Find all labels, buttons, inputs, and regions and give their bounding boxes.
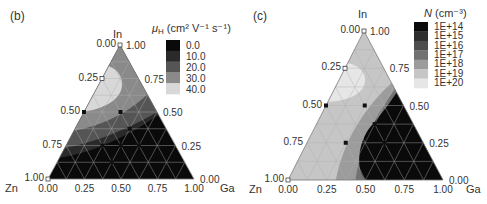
tick-bottom: 0.25 [75, 183, 95, 194]
legend-swatch [414, 50, 428, 60]
legend-swatch [166, 40, 180, 51]
legend-swatch [414, 79, 428, 89]
legend-title: μH (cm² V⁻¹ s⁻¹) [151, 22, 231, 36]
data-point [82, 110, 86, 114]
tick-bottom: 0.75 [395, 184, 415, 195]
legend-level: 30.0 [186, 73, 206, 84]
tick-bottom: 0.25 [317, 184, 337, 195]
tick-right: 0.25 [429, 138, 449, 149]
tick-right: 0.50 [410, 101, 430, 112]
tick-right: 0.75 [390, 63, 410, 74]
legend-level: 20.0 [186, 62, 206, 73]
tick-left: 0.25 [79, 72, 99, 83]
panel-label-b: (b) [10, 9, 25, 23]
data-point-open [343, 66, 347, 70]
legend-swatch [414, 60, 428, 70]
tick-left: 0.00 [341, 24, 361, 35]
tick-bottom: 1.00 [433, 184, 453, 195]
data-point-open [118, 43, 122, 47]
tick-bottom: 0.50 [111, 183, 131, 194]
legend-level: 40.0 [186, 84, 206, 95]
legend-level: 0.0 [186, 40, 200, 51]
vertex-label-in-c: In [358, 8, 367, 20]
data-point [344, 141, 348, 145]
data-point [324, 104, 328, 108]
legend-level: 1E+20 [434, 77, 464, 88]
tick-right: 1.00 [370, 26, 390, 37]
tick-right: 0.75 [145, 74, 165, 85]
tick-right: 1.00 [126, 40, 146, 51]
data-point [119, 144, 123, 148]
data-point [383, 141, 387, 145]
tick-left: 0.75 [284, 136, 304, 147]
panel-label-c: (c) [253, 9, 267, 23]
tick-bottom: 0.00 [38, 183, 58, 194]
vertex-label-in-b: In [113, 28, 122, 40]
legend-swatch [166, 51, 180, 62]
data-point-open [362, 29, 366, 33]
tick-right: 0.50 [163, 107, 183, 118]
tick-left: 0.25 [322, 61, 342, 72]
figure: 0.001.000.000.250.750.250.500.500.500.75… [0, 0, 487, 204]
legend-carrier-density: 1E+141E+151E+161E+171E+181E+191E+20N (cm… [414, 7, 467, 88]
legend-swatch [414, 31, 428, 41]
legend-title: N (cm⁻³) [424, 7, 467, 19]
data-point [110, 160, 114, 164]
tick-left: 1.00 [25, 172, 45, 183]
vertex-label-ga-b: Ga [220, 182, 236, 194]
vertex-label-zn-c: Zn [249, 183, 262, 195]
vertex-label-zn-b: Zn [5, 182, 18, 194]
legend-swatch [166, 83, 180, 94]
data-point-open [46, 177, 50, 181]
tick-bottom: 0.75 [148, 183, 168, 194]
tick-left: 0.50 [61, 105, 81, 116]
data-point [373, 122, 377, 126]
legend-level: 10.0 [186, 51, 206, 62]
tick-right: 0.25 [182, 141, 202, 152]
data-point-open [286, 178, 290, 182]
data-point [137, 144, 141, 148]
legend-swatch [414, 22, 428, 32]
legend-swatch [166, 62, 180, 73]
tick-bottom: 0.50 [356, 184, 376, 195]
data-point [363, 104, 367, 108]
tick-bottom: 0.00 [278, 184, 298, 195]
data-point [128, 127, 132, 131]
legend-swatch [414, 41, 428, 51]
data-point [119, 110, 123, 114]
tick-bottom: 1.00 [184, 183, 204, 194]
data-point [101, 144, 105, 148]
tick-left: 0.50 [303, 99, 323, 110]
data-point-open [100, 77, 104, 81]
vertex-label-ga-c: Ga [466, 183, 482, 195]
legend-swatch [414, 69, 428, 79]
tick-left: 1.00 [265, 173, 285, 184]
tick-left: 0.75 [43, 139, 63, 150]
legend-swatch [166, 72, 180, 83]
